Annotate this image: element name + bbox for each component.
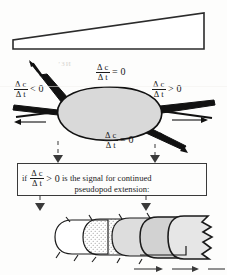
equation-bottom-denominator: Δ t: [105, 141, 117, 150]
flow-arrow-left-head: [53, 155, 63, 163]
condition-relation: > 0: [46, 173, 60, 184]
scan-smudge-line: [0, 86, 227, 87]
flow-arrow-right-head: [150, 155, 160, 163]
condition-line2: pseudopod extension:: [18, 184, 206, 194]
equation-top-denominator: Δ t: [97, 73, 109, 82]
equation-bottom-relation: = 0: [120, 135, 134, 145]
pseudopod-right-branch: [161, 111, 212, 118]
condition-line1-tail: is the signal for continued: [62, 173, 152, 183]
equation-top: Δ c Δ t = 0: [96, 63, 126, 82]
movement-arrows: [134, 266, 225, 272]
movement-arrow-1-head: [156, 266, 163, 272]
output-arrow-left-head: [35, 203, 45, 211]
figure-root: Δ c Δ t = 0 Δ c Δ t < 0 Δ c Δ t > 0 Δ c …: [0, 0, 227, 275]
extension-segment-5: [168, 216, 212, 259]
pseudopod-upper-left-tip-line: [33, 64, 41, 75]
condition-if-word: if: [22, 173, 27, 183]
equation-right-fraction: Δ c Δ t: [152, 80, 166, 99]
equation-bottom: Δ c Δ t = 0: [104, 131, 134, 150]
equation-bottom-fraction: Δ c Δ t: [104, 131, 118, 150]
equation-right: Δ c Δ t > 0: [152, 80, 182, 99]
gradient-wedge-shape: [13, 13, 204, 49]
equation-left-fraction: Δ c Δ t: [14, 80, 28, 99]
condition-box: if Δ c Δ t > 0 is the signal for continu…: [17, 163, 207, 196]
equation-top-fraction: Δ c Δ t: [96, 63, 110, 82]
equation-right-denominator: Δ t: [153, 90, 165, 99]
scan-artifact-text: ’ЗИ: [58, 60, 72, 68]
gradient-wedge-panel: [0, 0, 227, 62]
retraction-arrow-left-head: [14, 119, 21, 125]
equation-left: Δ c Δ t < 0: [14, 80, 44, 99]
movement-arrow-2-head: [192, 266, 199, 272]
equation-top-relation: = 0: [112, 67, 126, 77]
output-arrow-right-head: [141, 203, 151, 211]
extension-sequence-panel: [0, 212, 227, 275]
equation-left-denominator: Δ t: [15, 90, 27, 99]
